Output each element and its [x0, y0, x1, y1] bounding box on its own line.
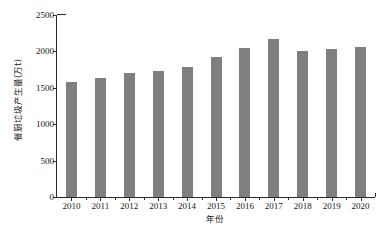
bar: [124, 73, 135, 197]
x-axis-title: 年份: [56, 212, 374, 224]
x-tick-label: 2011: [92, 202, 110, 211]
x-tick-label: 2014: [178, 202, 196, 211]
x-tick-label: 2013: [149, 202, 167, 211]
bar: [355, 47, 366, 197]
bar: [326, 49, 337, 197]
y-tick-label: 0: [50, 193, 55, 202]
x-minor-tick-mark: [202, 197, 203, 200]
x-minor-tick-mark: [346, 197, 347, 200]
bar: [211, 57, 222, 197]
y-axis-title: 餐厨垃圾产生量(万t): [8, 0, 26, 200]
x-minor-tick-mark: [144, 197, 145, 200]
x-minor-tick-mark: [173, 197, 174, 200]
plot-area: 05001000150020002500 2010201120122013201…: [56, 15, 375, 198]
bar: [297, 51, 308, 197]
axis-top-stub: [57, 14, 66, 15]
x-tick-label: 2018: [294, 202, 312, 211]
y-axis-title-text: 餐厨垃圾产生量(万t): [11, 59, 23, 141]
y-tick-label: 500: [41, 156, 55, 165]
y-tick-label: 2000: [36, 47, 54, 56]
x-minor-tick-mark: [259, 197, 260, 200]
axis-right-stub: [375, 193, 376, 197]
y-tick-label: 1000: [36, 120, 54, 129]
x-minor-tick-mark: [115, 197, 116, 200]
y-tick-label: 1500: [36, 83, 54, 92]
bar: [66, 82, 77, 197]
bar: [239, 48, 250, 197]
x-tick-label: 2017: [265, 202, 283, 211]
x-tick-label: 2012: [120, 202, 138, 211]
x-tick-label: 2010: [62, 202, 80, 211]
x-minor-tick-mark: [288, 197, 289, 200]
x-tick-label: 2020: [352, 202, 370, 211]
bar-chart-figure: 餐厨垃圾产生量(万t) 05001000150020002500 2010201…: [0, 0, 385, 236]
x-tick-label: 2019: [323, 202, 341, 211]
x-tick-label: 2015: [207, 202, 225, 211]
bar: [182, 67, 193, 197]
x-tick-label: 2016: [236, 202, 254, 211]
x-minor-tick-mark: [86, 197, 87, 200]
bar: [95, 78, 106, 197]
x-minor-tick-mark: [317, 197, 318, 200]
y-tick-label: 2500: [36, 11, 54, 20]
x-minor-tick-mark: [230, 197, 231, 200]
bar: [153, 71, 164, 197]
bar: [268, 39, 279, 197]
